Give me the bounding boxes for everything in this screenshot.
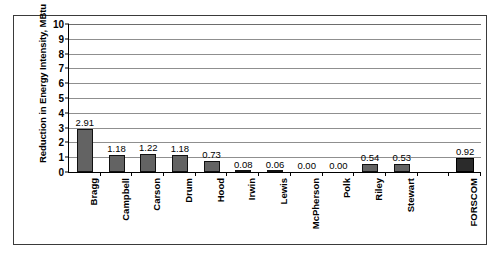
x-axis-category-label: Carson <box>151 178 162 211</box>
y-axis-tick-label: 2 <box>58 137 64 148</box>
plot-area: 0123456789102.911.181.221.180.730.080.06… <box>68 24 481 173</box>
chart-frame: Reduction in Energy Intensity, MBtu 0123… <box>13 15 487 245</box>
x-axis-tick-mark <box>258 172 259 176</box>
x-axis-tick-mark <box>131 172 132 176</box>
x-axis-tick-mark <box>480 172 481 176</box>
bar-group: 0.73 <box>196 24 228 172</box>
bar[interactable] <box>77 129 93 172</box>
bar-value-label: 0.00 <box>329 160 348 171</box>
bar-value-label: 1.22 <box>139 142 158 153</box>
x-axis-tick-mark <box>353 172 354 176</box>
bar-value-label: 0.54 <box>361 152 380 163</box>
y-axis-tick-label: 4 <box>58 107 64 118</box>
bar-group: 2.91 <box>69 24 101 172</box>
y-axis-title: Reduction in Energy Intensity, MBtu <box>37 4 48 164</box>
x-axis-tick-mark <box>100 172 101 176</box>
bar-value-label: 0.00 <box>297 160 316 171</box>
bar-value-label: 0.73 <box>202 149 221 160</box>
x-axis-category-label: Polk <box>341 178 352 198</box>
bar-group: 1.18 <box>164 24 196 172</box>
x-axis-category-label: Bragg <box>88 178 99 205</box>
x-axis-tick-mark <box>195 172 196 176</box>
y-axis-tick-label: 0 <box>58 167 64 178</box>
bar-group: 0.53 <box>386 24 418 172</box>
bar[interactable] <box>456 158 474 172</box>
bar[interactable] <box>267 170 283 172</box>
plot-inner: 0123456789102.911.181.221.180.730.080.06… <box>69 24 481 172</box>
bar-group: 1.22 <box>132 24 164 172</box>
bar-value-label: 0.53 <box>393 152 412 163</box>
x-axis-tick-mark <box>290 172 291 176</box>
x-axis-tick-mark <box>163 172 164 176</box>
bar[interactable] <box>362 164 378 172</box>
bar-group: 1.18 <box>101 24 133 172</box>
bar[interactable] <box>140 154 156 172</box>
x-axis-category-label: Lewis <box>278 178 289 204</box>
y-axis-tick-label: 5 <box>58 93 64 104</box>
x-axis-category-label: Hood <box>215 178 226 202</box>
y-axis-tick-label: 8 <box>58 48 64 59</box>
bar-group: 0.92 <box>449 24 481 172</box>
x-axis-category-label: Campbell <box>120 178 131 221</box>
bar-group: 0.54 <box>354 24 386 172</box>
x-axis-category-label: Riley <box>373 178 384 201</box>
bar-value-label: 2.91 <box>76 117 95 128</box>
bar-value-label: 0.08 <box>234 159 253 170</box>
bar[interactable] <box>204 161 220 172</box>
bar-group: 0.08 <box>227 24 259 172</box>
x-axis-category-label: Stewart <box>405 178 416 212</box>
y-axis-tick-label: 6 <box>58 78 64 89</box>
x-axis-tick-mark <box>385 172 386 176</box>
bar-value-label: 0.92 <box>456 146 475 157</box>
bar[interactable] <box>109 155 125 172</box>
bar[interactable] <box>235 170 251 172</box>
x-axis-category-label: McPherson <box>310 178 321 229</box>
bar-value-label: 0.06 <box>266 159 285 170</box>
y-axis-tick-label: 7 <box>58 63 64 74</box>
bar-value-label: 1.18 <box>171 143 190 154</box>
y-axis-tick-label: 3 <box>58 122 64 133</box>
x-axis-category-label: Drum <box>183 178 194 203</box>
x-axis-category-label: FORSCOM <box>468 178 479 227</box>
bar-value-label: 1.18 <box>107 143 126 154</box>
x-axis-tick-mark <box>417 172 418 176</box>
x-axis-category-label: Irwin <box>246 178 257 200</box>
x-axis-tick-mark <box>448 172 449 176</box>
bar[interactable] <box>172 155 188 172</box>
bar-group: 0.00 <box>291 24 323 172</box>
y-axis-tick-label: 1 <box>58 152 64 163</box>
y-axis-tick-label: 9 <box>58 33 64 44</box>
bar-group: 0.00 <box>323 24 355 172</box>
bar-group <box>418 24 450 172</box>
bar[interactable] <box>394 164 410 172</box>
x-axis-tick-mark <box>322 172 323 176</box>
x-axis-tick-mark <box>226 172 227 176</box>
y-axis-tick-label: 10 <box>53 19 64 30</box>
bar-group: 0.06 <box>259 24 291 172</box>
